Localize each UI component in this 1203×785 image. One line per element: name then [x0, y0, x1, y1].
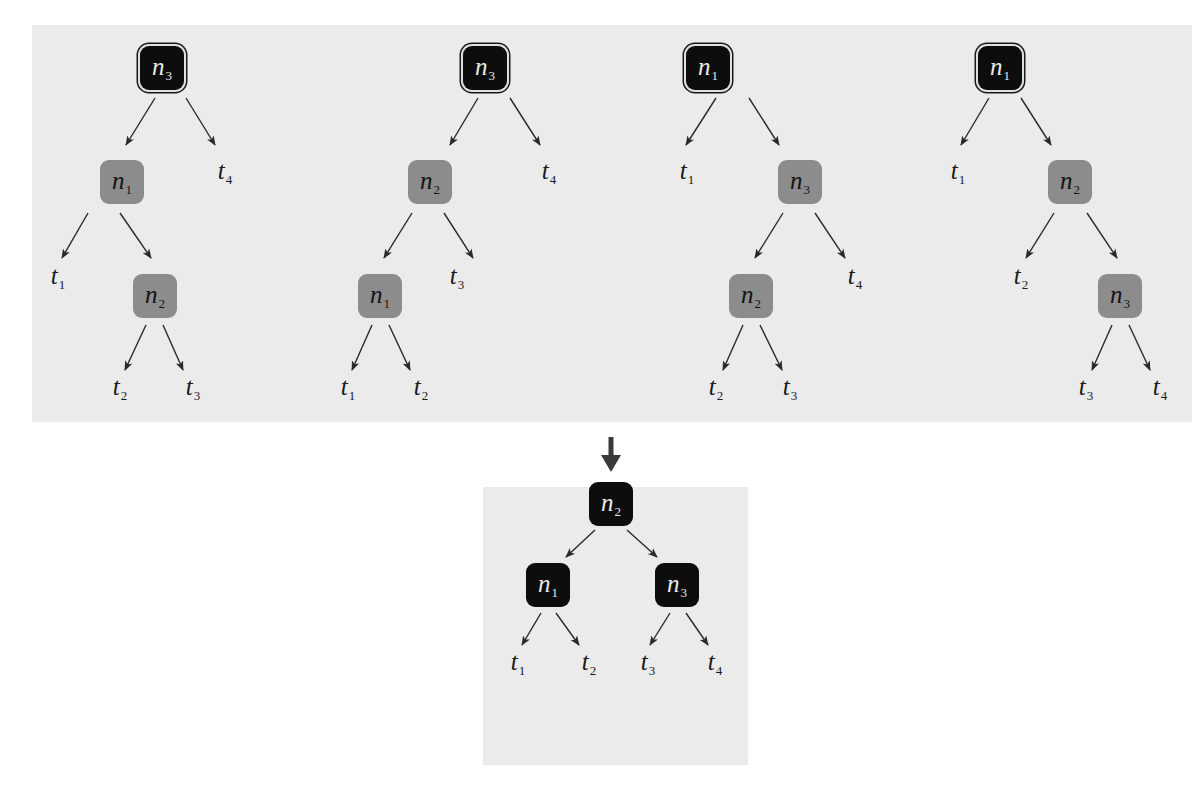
edge-layer — [0, 0, 1203, 785]
tree-node-n2: n2 — [133, 274, 177, 318]
leaf-t1: t1 — [951, 158, 965, 186]
label-var: n — [990, 53, 1003, 80]
edge-arrow-icon — [186, 98, 215, 145]
tree-node-n3: n3 — [463, 46, 507, 90]
edge-arrow-icon — [450, 98, 478, 145]
tree-node-n1: n1 — [100, 160, 144, 204]
leaf-t4: t4 — [848, 263, 862, 291]
tree-node-n2: n2 — [729, 274, 773, 318]
label-var: t — [1153, 373, 1160, 400]
node-label: n2 — [1060, 168, 1080, 196]
tree-node-n1: n1 — [358, 274, 402, 318]
label-var: t — [1079, 373, 1086, 400]
edge-arrow-icon — [749, 98, 779, 145]
label-var: t — [709, 373, 716, 400]
leaf-t3: t3 — [1079, 374, 1093, 402]
label-var: t — [341, 373, 348, 400]
leaf-t2: t2 — [582, 649, 596, 677]
label-var: t — [680, 157, 687, 184]
label-subscript: 2 — [434, 182, 441, 197]
label-subscript: 3 — [458, 277, 465, 292]
label-var: n — [370, 281, 383, 308]
edge-arrow-icon — [384, 213, 412, 258]
tree-node-n1: n1 — [978, 46, 1022, 90]
label-subscript: 4 — [1161, 388, 1168, 403]
node-label: n3 — [1110, 282, 1130, 310]
node-label: n1 — [112, 168, 132, 196]
label-var: n — [152, 53, 165, 80]
edge-arrow-icon — [1129, 325, 1150, 370]
leaf-t3: t3 — [186, 374, 200, 402]
tree-node-n3: n3 — [655, 563, 699, 607]
label-var: n — [790, 167, 803, 194]
leaf-t1: t1 — [511, 649, 525, 677]
leaf-t4: t4 — [218, 158, 232, 186]
label-var: n — [698, 53, 711, 80]
leaf-t1: t1 — [680, 158, 694, 186]
label-subscript: 1 — [384, 296, 391, 311]
label-subscript: 2 — [717, 388, 724, 403]
edge-arrow-icon — [815, 213, 845, 258]
transition-arrow-icon — [601, 437, 621, 472]
node-label: n2 — [420, 168, 440, 196]
label-subscript: 2 — [422, 388, 429, 403]
node-label: n3 — [475, 54, 495, 82]
node-label: n2 — [145, 282, 165, 310]
edge-arrow-icon — [163, 325, 183, 370]
label-var: n — [475, 53, 488, 80]
node-label: n3 — [152, 54, 172, 82]
edge-arrow-icon — [755, 213, 783, 258]
edge-arrow-icon — [627, 530, 657, 557]
label-var: n — [1110, 281, 1123, 308]
edge-arrow-icon — [120, 213, 151, 258]
edge-arrow-icon — [686, 613, 708, 645]
leaf-t4: t4 — [1153, 374, 1167, 402]
node-label: n3 — [790, 168, 810, 196]
label-var: n — [601, 489, 614, 516]
edge-arrow-icon — [556, 613, 579, 645]
label-var: t — [708, 648, 715, 675]
leaf-t1: t1 — [51, 263, 65, 291]
label-var: n — [420, 167, 433, 194]
label-subscript: 1 — [349, 388, 356, 403]
leaf-t2: t2 — [1014, 263, 1028, 291]
tree-node-n2: n2 — [408, 160, 452, 204]
leaf-t1: t1 — [341, 374, 355, 402]
label-subscript: 2 — [615, 504, 622, 519]
edge-arrow-icon — [650, 613, 670, 645]
label-subscript: 2 — [159, 296, 166, 311]
label-var: n — [741, 281, 754, 308]
node-label: n1 — [538, 571, 558, 599]
node-label: n2 — [741, 282, 761, 310]
edge-arrow-icon — [566, 530, 595, 557]
label-var: t — [582, 648, 589, 675]
label-var: t — [113, 373, 120, 400]
leaf-t4: t4 — [542, 158, 556, 186]
label-subscript: 1 — [688, 172, 695, 187]
label-var: t — [783, 373, 790, 400]
edge-arrow-icon — [510, 98, 540, 145]
label-subscript: 3 — [1124, 296, 1131, 311]
edge-arrow-icon — [1021, 98, 1051, 145]
node-label: n2 — [601, 490, 621, 518]
label-subscript: 3 — [791, 388, 798, 403]
edge-arrow-icon — [1092, 325, 1112, 370]
label-subscript: 2 — [121, 388, 128, 403]
label-var: n — [1060, 167, 1073, 194]
label-subscript: 4 — [226, 172, 233, 187]
label-var: t — [951, 157, 958, 184]
edge-arrow-icon — [522, 613, 541, 645]
label-subscript: 3 — [489, 68, 496, 83]
tree-node-n3: n3 — [1098, 274, 1142, 318]
label-subscript: 1 — [552, 585, 559, 600]
label-subscript: 4 — [550, 172, 557, 187]
edge-arrow-icon — [686, 98, 716, 145]
tree-node-n2: n2 — [589, 482, 633, 526]
leaf-t4: t4 — [708, 649, 722, 677]
label-subscript: 3 — [649, 663, 656, 678]
label-var: n — [538, 570, 551, 597]
label-subscript: 3 — [804, 182, 811, 197]
leaf-t3: t3 — [450, 263, 464, 291]
tree-node-n2: n2 — [1048, 160, 1092, 204]
label-var: t — [848, 262, 855, 289]
